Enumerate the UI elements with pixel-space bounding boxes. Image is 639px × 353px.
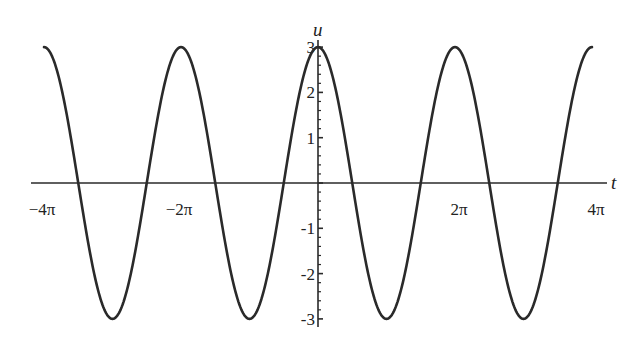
y-tick-label: 1	[307, 129, 316, 148]
x-tick-label: 4π	[587, 200, 605, 219]
y-tick-label: -2	[301, 265, 315, 284]
y-axis-label: u	[313, 19, 323, 40]
chart: t u 321-1-2-3−4π−2π2π4π	[0, 0, 639, 353]
y-tick-label: -1	[301, 219, 315, 238]
y-tick-label: -3	[301, 310, 315, 329]
x-tick-label: −2π	[166, 200, 193, 219]
axes: t u	[31, 19, 617, 327]
y-tick-label: 2	[307, 83, 316, 102]
x-axis-label: t	[611, 172, 617, 193]
x-tick-label: −4π	[29, 200, 56, 219]
x-tick-label: 2π	[450, 200, 468, 219]
